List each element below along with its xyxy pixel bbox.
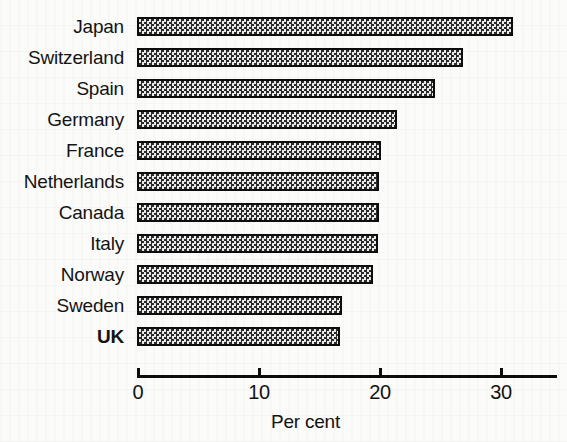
- bar-spain: [137, 79, 435, 98]
- bar-row: [137, 265, 557, 284]
- plot-area: [137, 17, 557, 375]
- category-label-germany: Germany: [0, 110, 130, 129]
- bar-row: [137, 110, 557, 129]
- bar-row: [137, 17, 557, 36]
- category-label-switzerland: Switzerland: [0, 48, 130, 67]
- category-label-france: France: [0, 141, 130, 160]
- bar-france: [137, 141, 381, 160]
- x-axis-tick-label-20: 20: [369, 382, 391, 402]
- x-axis-tick-label-10: 10: [248, 382, 270, 402]
- x-axis-tick-label-30: 30: [490, 382, 512, 402]
- category-axis-labels: Japan Switzerland Spain Germany France N…: [0, 17, 130, 358]
- bar-row: [137, 172, 557, 191]
- category-label-netherlands: Netherlands: [0, 172, 130, 191]
- x-axis-title: Per cent: [0, 412, 567, 431]
- x-axis-tick: [379, 368, 382, 376]
- bar-japan: [137, 17, 513, 36]
- bar-row: [137, 203, 557, 222]
- category-label-canada: Canada: [0, 203, 130, 222]
- category-label-uk: UK: [0, 327, 130, 346]
- x-axis-tick: [500, 368, 503, 376]
- x-axis-line: [137, 375, 557, 378]
- bar-switzerland: [137, 48, 463, 67]
- chart-figure: Japan Switzerland Spain Germany France N…: [0, 0, 567, 442]
- x-axis: [137, 375, 557, 379]
- category-label-sweden: Sweden: [0, 296, 130, 315]
- bar-uk: [137, 327, 340, 346]
- x-axis-tick: [137, 368, 140, 376]
- bar-row: [137, 234, 557, 253]
- category-label-japan: Japan: [0, 17, 130, 36]
- bar-sweden: [137, 296, 342, 315]
- bar-row: [137, 141, 557, 160]
- bar-row: [137, 79, 557, 98]
- x-axis-tick: [258, 368, 261, 376]
- bar-row: [137, 48, 557, 67]
- bar-row: [137, 296, 557, 315]
- category-label-spain: Spain: [0, 79, 130, 98]
- bar-canada: [137, 203, 379, 222]
- x-axis-tick-label-0: 0: [133, 382, 144, 402]
- bar-row: [137, 327, 557, 346]
- bar-norway: [137, 265, 373, 284]
- bar-netherlands: [137, 172, 379, 191]
- category-label-norway: Norway: [0, 265, 130, 284]
- bar-germany: [137, 110, 397, 129]
- category-label-italy: Italy: [0, 234, 130, 253]
- bar-italy: [137, 234, 378, 253]
